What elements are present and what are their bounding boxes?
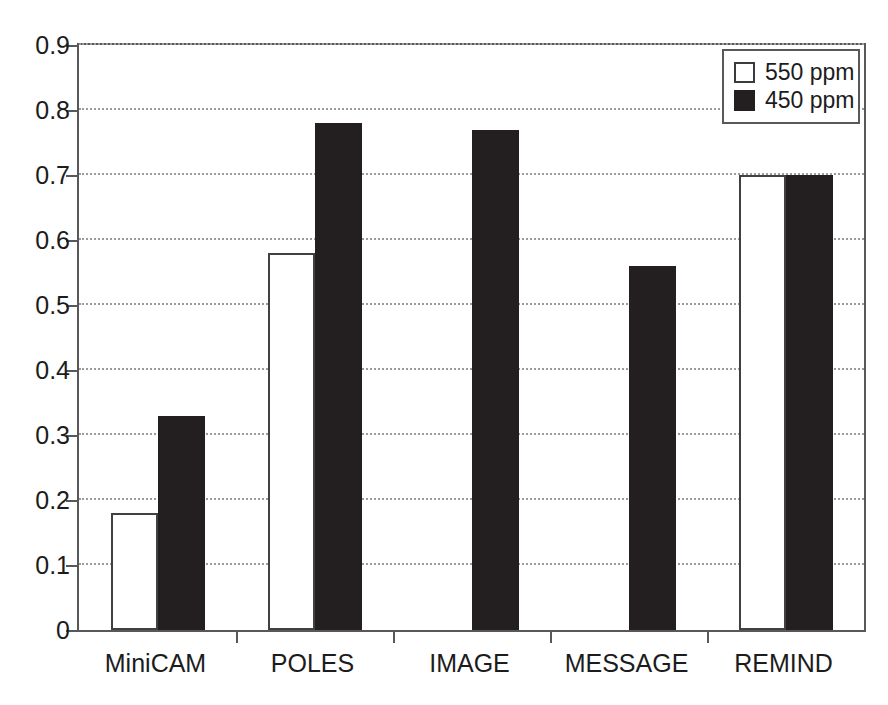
bar: [158, 416, 205, 631]
gridline: [79, 43, 864, 45]
plot-area: 00.10.20.30.40.50.60.70.80.9: [77, 43, 866, 632]
y-tick-label: 0.1: [35, 553, 70, 578]
bar: [472, 130, 519, 631]
y-tick-label: 0.9: [35, 33, 70, 58]
y-tick-label: 0.7: [35, 163, 70, 188]
legend: 550 ppm 450 ppm: [722, 49, 860, 124]
x-axis-label: REMIND: [734, 651, 833, 676]
legend-label: 550 ppm: [765, 61, 855, 84]
y-tick-label: 0.5: [35, 293, 70, 318]
legend-label: 450 ppm: [765, 89, 855, 112]
y-tick-label: 0.2: [35, 488, 70, 513]
x-axis-label: MiniCAM: [105, 651, 206, 676]
x-tick-mark: [236, 630, 238, 643]
x-tick-mark: [707, 630, 709, 643]
y-tick-label: 0.6: [35, 228, 70, 253]
legend-item: 450 ppm: [734, 86, 848, 114]
bar-chart-figure: 00.10.20.30.40.50.60.70.80.9 MiniCAMPOLE…: [0, 0, 888, 705]
bar: [739, 175, 786, 630]
x-tick-mark: [393, 630, 395, 643]
x-tick-mark: [550, 630, 552, 643]
x-axis-label: IMAGE: [429, 651, 510, 676]
bar: [111, 513, 158, 630]
y-tick-label: 0.4: [35, 358, 70, 383]
y-tick-label: 0.3: [35, 423, 70, 448]
bar: [786, 175, 833, 630]
y-tick-label: 0: [56, 618, 70, 643]
x-axis-label: MESSAGE: [565, 651, 689, 676]
y-tick-label: 0.8: [35, 98, 70, 123]
bar: [315, 123, 362, 630]
black-square-swatch-icon: [734, 90, 755, 111]
bar: [268, 253, 315, 630]
bar: [629, 266, 676, 630]
white-square-swatch-icon: [734, 62, 755, 83]
x-axis-label: POLES: [271, 651, 354, 676]
legend-item: 550 ppm: [734, 58, 848, 86]
